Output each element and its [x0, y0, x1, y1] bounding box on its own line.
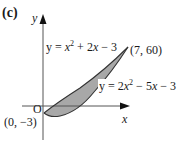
x-axis-arrow-icon: [120, 103, 130, 110]
x-axis-label: x: [122, 113, 127, 125]
y-axis-arrow-icon: [40, 14, 47, 24]
upper-curve-equation: y = x2 + 2x − 3: [45, 40, 118, 53]
intersection-point-label: (7, 60): [130, 44, 162, 56]
y-intercept-label: (0, −3): [4, 116, 37, 128]
origin-label: O: [33, 103, 42, 115]
y-axis-label: y: [32, 12, 37, 24]
lower-curve-equation: y = 2x2 − 5x − 3: [98, 79, 177, 92]
